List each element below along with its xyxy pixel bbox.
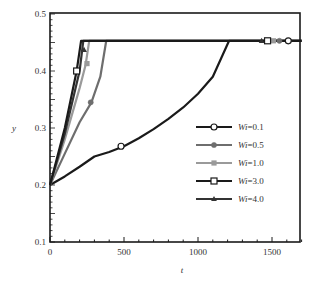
y-tick-label: 0.3 bbox=[35, 123, 47, 133]
x-tick-label: 500 bbox=[117, 247, 131, 257]
legend-label: Wi=3.0 bbox=[238, 176, 264, 186]
legend-item: Wi=0.1 bbox=[196, 122, 264, 132]
x-tick-label: 1000 bbox=[189, 247, 208, 257]
legend-label: Wi=4.0 bbox=[238, 194, 264, 204]
legend-item: Wi=4.0 bbox=[196, 194, 264, 204]
filled-circle-marker-icon bbox=[88, 100, 93, 105]
filled-square-marker-icon bbox=[211, 160, 216, 165]
legend-item: Wi=1.0 bbox=[196, 158, 264, 168]
legend-label: Wi=0.5 bbox=[238, 140, 264, 150]
y-tick-label: 0.4 bbox=[35, 66, 47, 76]
y-tick-label: 0.2 bbox=[35, 180, 46, 190]
legend-label: Wi=1.0 bbox=[238, 158, 264, 168]
legend-label: Wi=0.1 bbox=[238, 122, 264, 132]
open-square-marker-icon bbox=[265, 38, 271, 44]
open-circle-marker-icon bbox=[211, 124, 217, 130]
open-circle-marker-icon bbox=[285, 38, 291, 44]
y-tick-labels: 0.10.20.30.40.5 bbox=[35, 9, 47, 247]
legend: Wi=0.1Wi=0.5Wi=1.0Wi=3.0Wi=4.0 bbox=[196, 122, 264, 204]
filled-circle-marker-icon bbox=[211, 142, 216, 147]
open-circle-marker-icon bbox=[118, 143, 124, 149]
filled-square-marker-icon bbox=[271, 38, 276, 43]
y-axis-label: y bbox=[11, 123, 16, 133]
open-square-marker-icon bbox=[211, 178, 217, 184]
open-square-marker-icon bbox=[74, 68, 80, 74]
y-tick-label: 0.5 bbox=[35, 9, 47, 19]
markers-group bbox=[74, 38, 292, 150]
x-tick-label: 1500 bbox=[263, 247, 282, 257]
legend-item: Wi=0.5 bbox=[196, 140, 264, 150]
x-tick-label: 0 bbox=[48, 247, 53, 257]
line-chart: 0.10.20.30.40.5 050010001500 t y Wi=0.1W… bbox=[0, 0, 309, 282]
filled-square-marker-icon bbox=[84, 61, 89, 66]
filled-circle-marker-icon bbox=[277, 38, 282, 43]
legend-item: Wi=3.0 bbox=[196, 176, 264, 186]
y-tick-label: 0.1 bbox=[35, 237, 46, 247]
x-tick-labels: 050010001500 bbox=[48, 247, 282, 257]
x-axis-label: t bbox=[181, 265, 184, 275]
